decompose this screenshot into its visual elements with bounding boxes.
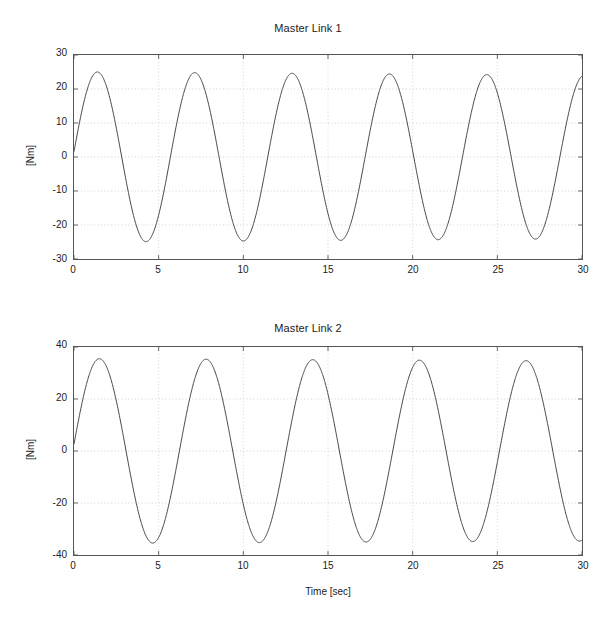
- chart-2-title: Master Link 2: [0, 322, 616, 334]
- xtick-label: 0: [53, 560, 93, 571]
- xtick-label: 20: [393, 264, 433, 275]
- chart-2-canvas: [74, 347, 582, 555]
- chart-2-xlabel: Time [sec]: [73, 586, 583, 597]
- xtick-label: 30: [563, 264, 603, 275]
- xtick-label: 20: [393, 560, 433, 571]
- ytick-label: 40: [29, 339, 67, 350]
- ytick-label: 20: [29, 392, 67, 403]
- chart-master-link-1: Master Link 1 [Nm] 3020100-10-20-30 0510…: [0, 0, 616, 312]
- ytick-label: -10: [29, 184, 67, 195]
- chart-1-canvas: [74, 55, 582, 259]
- xtick-label: 25: [478, 560, 518, 571]
- figure-page: Master Link 1 [Nm] 3020100-10-20-30 0510…: [0, 0, 616, 624]
- ytick-label: -20: [29, 497, 67, 508]
- ytick-label: 30: [29, 47, 67, 58]
- chart-1-plot-area: [73, 54, 583, 260]
- ytick-label: 20: [29, 81, 67, 92]
- xtick-label: 10: [223, 560, 263, 571]
- ytick-label: 0: [29, 444, 67, 455]
- ytick-label: 10: [29, 116, 67, 127]
- xtick-label: 0: [53, 264, 93, 275]
- chart-1-title: Master Link 1: [0, 22, 616, 34]
- ytick-label: 0: [29, 150, 67, 161]
- ytick-label: -20: [29, 219, 67, 230]
- xtick-label: 5: [138, 264, 178, 275]
- xtick-label: 10: [223, 264, 263, 275]
- xtick-label: 15: [308, 264, 348, 275]
- xtick-label: 30: [563, 560, 603, 571]
- ytick-label: -40: [29, 549, 67, 560]
- chart-2-plot-area: [73, 346, 583, 556]
- ytick-label: -30: [29, 253, 67, 264]
- xtick-label: 5: [138, 560, 178, 571]
- xtick-label: 25: [478, 264, 518, 275]
- chart-master-link-2: Master Link 2 [Nm] Time [sec] 40200-20-4…: [0, 312, 616, 624]
- xtick-label: 15: [308, 560, 348, 571]
